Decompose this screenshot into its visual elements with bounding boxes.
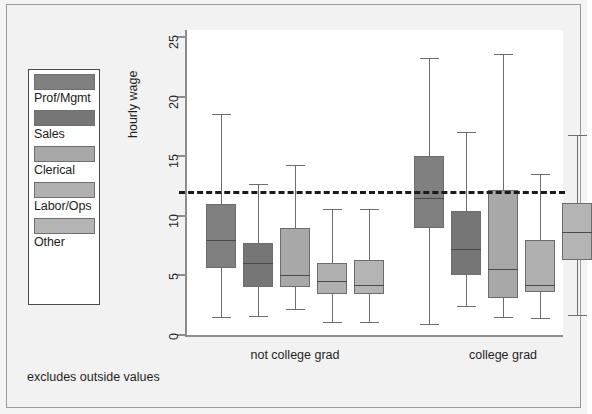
y-tick-label-20: 20	[167, 95, 181, 109]
legend-label-labor-ops: Labor/Ops	[34, 198, 94, 215]
legend-item-prof-mgmt[interactable]: Prof/Mgmt	[34, 74, 94, 107]
plot-area	[186, 30, 563, 335]
whisker-lower	[577, 260, 578, 315]
whisker-cap-lower	[568, 315, 587, 316]
legend-swatch-labor-ops	[34, 182, 95, 198]
legend-item-labor-ops[interactable]: Labor/Ops	[34, 182, 94, 215]
legend-swatch-prof-mgmt	[34, 74, 95, 90]
legend-label-sales: Sales	[34, 126, 94, 143]
x-axis-line	[185, 335, 563, 337]
legend-label-prof-mgmt: Prof/Mgmt	[34, 90, 94, 107]
x-axis-label-college-grad: college grad	[469, 348, 537, 362]
footnote: excludes outside values	[27, 370, 160, 384]
legend-swatch-sales	[34, 110, 95, 126]
y-tick-label-0: 0	[167, 333, 181, 340]
legend: Prof/Mgmt Sales Clerical Labor/Ops Other	[28, 69, 100, 305]
median-line	[562, 232, 592, 233]
boxplot-college-grad-other[interactable]	[186, 30, 563, 335]
legend-item-other[interactable]: Other	[34, 218, 94, 251]
legend-swatch-clerical	[34, 146, 95, 162]
y-axis-line	[185, 30, 187, 336]
box-iqr	[562, 203, 592, 260]
legend-item-clerical[interactable]: Clerical	[34, 146, 94, 179]
legend-label-other: Other	[34, 234, 94, 251]
x-axis-label-not-college-grad: not college grad	[251, 348, 340, 362]
whisker-cap-upper	[568, 135, 587, 136]
y-tick-label-15: 15	[167, 154, 181, 168]
whisker-upper	[577, 135, 578, 203]
y-tick-label-10: 10	[167, 214, 181, 228]
legend-label-clerical: Clerical	[34, 162, 94, 179]
reference-line	[179, 191, 565, 194]
y-tick-label-25: 25	[167, 35, 181, 49]
y-tick-label-5: 5	[167, 273, 181, 280]
legend-item-sales[interactable]: Sales	[34, 110, 94, 143]
y-axis-title: hourly wage	[126, 71, 140, 138]
legend-swatch-other	[34, 218, 95, 234]
